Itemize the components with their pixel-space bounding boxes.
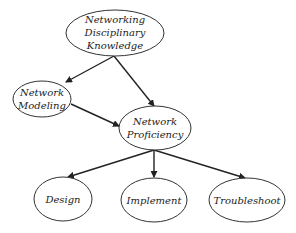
edge-ndk-to-np xyxy=(114,56,154,106)
node-label-line: Troubleshoot xyxy=(213,195,281,206)
node-label-line: Knowledge xyxy=(86,40,143,51)
node-implement: Implement xyxy=(121,178,187,222)
node-networking-disciplinary-knowledge: Networking Disciplinary Knowledge xyxy=(66,10,164,56)
edge-ndk-to-nm xyxy=(66,56,114,82)
node-label-line: Modeling xyxy=(17,100,66,111)
node-network-proficiency: Network Proficiency xyxy=(119,106,191,150)
edge-nm-to-np xyxy=(71,104,119,126)
edge-np-to-design xyxy=(68,150,154,177)
edge-np-to-troubleshoot xyxy=(154,150,245,178)
node-label-line: Disciplinary xyxy=(84,27,146,38)
node-network-modeling: Network Modeling xyxy=(13,81,71,117)
node-label-line: Network xyxy=(132,116,177,127)
node-label-line: Networking xyxy=(84,14,145,25)
node-label-line: Design xyxy=(44,194,80,205)
node-troubleshoot: Troubleshoot xyxy=(209,178,285,222)
node-label-line: Network xyxy=(19,87,64,98)
node-design: Design xyxy=(34,177,92,221)
node-label-line: Proficiency xyxy=(126,129,184,140)
node-label-line: Implement xyxy=(126,195,183,206)
diagram-canvas: Networking Disciplinary Knowledge Networ… xyxy=(0,0,296,233)
